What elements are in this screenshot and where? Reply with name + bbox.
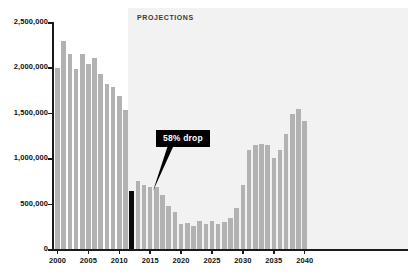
bar-2017 bbox=[160, 195, 165, 249]
x-tick-label-2035: 2035 bbox=[265, 256, 282, 265]
bar-2027 bbox=[222, 222, 227, 249]
bar-2018 bbox=[166, 206, 171, 249]
bar-2038 bbox=[290, 114, 295, 249]
bar-2015 bbox=[148, 187, 153, 249]
bar-2009 bbox=[111, 87, 116, 249]
bar-2029 bbox=[234, 208, 239, 249]
y-tick-mark-0 bbox=[48, 249, 52, 251]
x-tick-label-2000: 2000 bbox=[49, 256, 66, 265]
bar-2010 bbox=[117, 96, 122, 249]
bar-2020 bbox=[179, 224, 184, 249]
x-tick-label-2010: 2010 bbox=[111, 256, 128, 265]
bar-2031 bbox=[247, 150, 252, 249]
y-tick-label-1000000: 1,000,000 bbox=[14, 153, 48, 162]
y-tick-1500000: 1,500,000 bbox=[0, 108, 48, 118]
bar-2014 bbox=[142, 185, 147, 249]
y-tick-label-1500000: 1,500,000 bbox=[14, 108, 48, 117]
bar-2033 bbox=[259, 144, 264, 249]
bar-series bbox=[0, 0, 408, 249]
chart-container: PROJECTIONS 0500,0001,000,0001,500,0002,… bbox=[0, 0, 408, 279]
bar-2004 bbox=[80, 54, 85, 249]
y-tick-label-500000: 500,000 bbox=[20, 199, 48, 208]
y-tick-mark-2000000 bbox=[48, 67, 52, 69]
bar-2026 bbox=[216, 224, 221, 249]
y-tick-label-2000000: 2,000,000 bbox=[14, 62, 48, 71]
bar-2006 bbox=[92, 58, 97, 249]
x-tick-mark-2020 bbox=[180, 249, 182, 254]
y-tick-mark-2500000 bbox=[48, 22, 52, 24]
bar-2003 bbox=[74, 69, 79, 249]
x-tick-label-2040: 2040 bbox=[296, 256, 313, 265]
y-tick-2000000: 2,000,000 bbox=[0, 62, 48, 72]
bar-2040 bbox=[302, 121, 307, 249]
x-tick-mark-2030 bbox=[242, 249, 244, 254]
callout-pointer-icon bbox=[151, 145, 173, 191]
bar-2008 bbox=[105, 84, 110, 249]
bar-2032 bbox=[253, 145, 258, 249]
x-tick-mark-2010 bbox=[119, 249, 121, 254]
y-tick-mark-1000000 bbox=[48, 158, 52, 160]
bar-2035 bbox=[272, 158, 277, 249]
annotation-58-percent-drop: 58% drop bbox=[156, 130, 210, 147]
bar-2030 bbox=[241, 185, 246, 249]
y-tick-mark-1500000 bbox=[48, 113, 52, 115]
x-tick-label-2020: 2020 bbox=[173, 256, 190, 265]
bar-2001 bbox=[61, 41, 66, 249]
bar-2019 bbox=[173, 212, 178, 249]
y-axis-line bbox=[52, 22, 54, 250]
x-tick-mark-2015 bbox=[149, 249, 151, 254]
y-tick-mark-500000 bbox=[48, 204, 52, 206]
y-tick-0: 0 bbox=[0, 244, 48, 254]
bar-2016 bbox=[154, 187, 159, 249]
bar-2037 bbox=[284, 134, 289, 249]
bar-2012 bbox=[129, 191, 134, 249]
bar-2013 bbox=[136, 181, 141, 249]
y-tick-2500000: 2,500,000 bbox=[0, 17, 48, 27]
x-tick-label-2030: 2030 bbox=[234, 256, 251, 265]
bar-2034 bbox=[265, 145, 270, 249]
x-tick-label-2015: 2015 bbox=[142, 256, 159, 265]
bar-2007 bbox=[98, 74, 103, 249]
x-tick-label-2005: 2005 bbox=[80, 256, 97, 265]
y-tick-500000: 500,000 bbox=[0, 199, 48, 209]
x-tick-mark-2040 bbox=[304, 249, 306, 254]
x-tick-mark-2005 bbox=[88, 249, 90, 254]
x-tick-mark-2000 bbox=[57, 249, 59, 254]
x-tick-mark-2025 bbox=[211, 249, 213, 254]
bar-2021 bbox=[185, 223, 190, 249]
bar-2024 bbox=[204, 224, 209, 249]
bar-2011 bbox=[123, 110, 128, 249]
y-tick-1000000: 1,000,000 bbox=[0, 153, 48, 163]
bar-2025 bbox=[210, 221, 215, 249]
x-tick-mark-2035 bbox=[273, 249, 275, 254]
bar-2023 bbox=[197, 221, 202, 249]
bar-2036 bbox=[278, 150, 283, 249]
x-tick-label-2025: 2025 bbox=[203, 256, 220, 265]
x-axis-line bbox=[52, 249, 408, 251]
y-tick-label-2500000: 2,500,000 bbox=[14, 17, 48, 26]
bar-2028 bbox=[228, 218, 233, 249]
bar-2039 bbox=[296, 109, 301, 249]
bar-2002 bbox=[68, 54, 73, 249]
bar-2022 bbox=[191, 226, 196, 249]
bar-2000 bbox=[55, 68, 60, 249]
bar-2005 bbox=[86, 64, 91, 249]
